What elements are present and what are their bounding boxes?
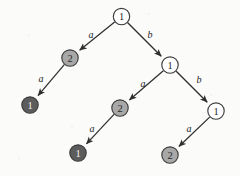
edge-label: b [148, 29, 153, 40]
edge-label: a [39, 73, 44, 84]
tree-node[interactable]: 1 [162, 57, 178, 73]
tree-node[interactable]: 1 [113, 8, 129, 24]
tree-edge [129, 71, 163, 100]
nodes-layer: 12112112 [22, 8, 224, 163]
edge-label: a [89, 29, 94, 40]
node-circle[interactable] [162, 147, 178, 163]
node-circle[interactable] [70, 145, 86, 161]
edge-label: b [197, 74, 202, 85]
tree-node[interactable]: 2 [162, 147, 178, 163]
edge-labels-layer: abaabaa [39, 29, 202, 134]
tree-diagram: abaabaa 12112112 [0, 0, 240, 176]
node-circle[interactable] [62, 50, 78, 66]
edges-layer [38, 22, 210, 146]
tree-edge [179, 117, 210, 146]
tree-node[interactable]: 1 [208, 103, 224, 119]
node-circle[interactable] [162, 57, 178, 73]
node-circle[interactable] [208, 103, 224, 119]
tree-edge [128, 23, 162, 57]
tree-node[interactable]: 2 [62, 50, 78, 66]
tree-node[interactable]: 2 [112, 100, 128, 116]
edge-label: a [141, 78, 146, 89]
node-circle[interactable] [112, 100, 128, 116]
edge-label: a [187, 123, 192, 134]
tree-canvas: abaabaa 12112112 [0, 0, 240, 176]
tree-node[interactable]: 1 [70, 145, 86, 161]
node-circle[interactable] [113, 8, 129, 24]
tree-node[interactable]: 1 [22, 97, 38, 113]
edge-label: a [90, 123, 95, 134]
tree-edge [176, 71, 207, 102]
node-circle[interactable] [22, 97, 38, 113]
tree-edge [80, 22, 115, 50]
